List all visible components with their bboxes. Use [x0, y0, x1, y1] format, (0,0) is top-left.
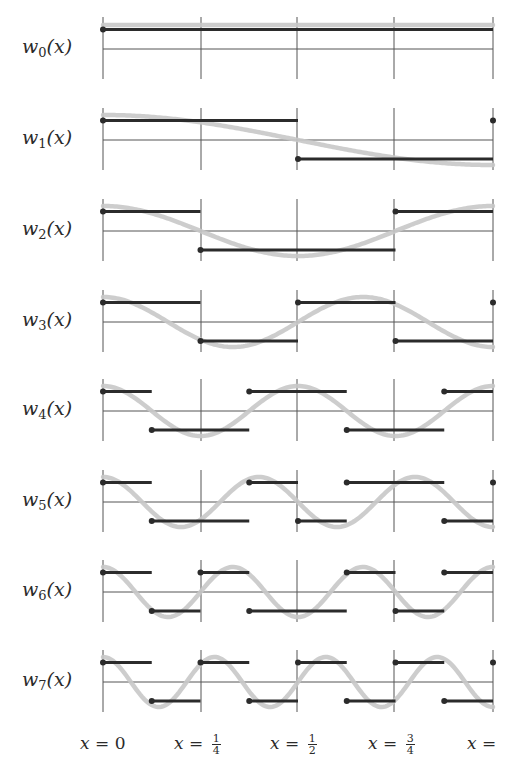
row-label-w0: w0(x): [22, 35, 92, 60]
segment-start-dot: [198, 247, 204, 253]
function-index: 3: [38, 318, 46, 333]
segment-start-dot: [100, 209, 106, 215]
function-index: 6: [38, 588, 46, 603]
x-axis-label: x = 34: [368, 733, 415, 756]
fraction-denominator: 2: [309, 745, 316, 756]
segment-start-dot: [441, 389, 447, 395]
function-argument: (x): [47, 578, 73, 600]
function-index: 5: [38, 498, 46, 513]
equals-sign: =: [280, 733, 305, 753]
segment-start-dot: [393, 660, 399, 666]
equals-sign: =: [90, 733, 115, 753]
segment-start-dot: [198, 338, 204, 344]
segment-start-dot: [149, 427, 155, 433]
function-argument: (x): [47, 488, 73, 510]
segment-start-dot: [295, 156, 301, 162]
segment-start-dot: [100, 300, 106, 306]
segment-start-dot: [295, 300, 301, 306]
function-index: 2: [38, 227, 46, 242]
endpoint-dot: [490, 300, 496, 306]
segment-start-dot: [344, 480, 350, 486]
function-index: 7: [38, 678, 46, 693]
equals-sign: =: [378, 733, 403, 753]
segment-start-dot: [246, 480, 252, 486]
row-label-w3: w3(x): [22, 308, 92, 333]
function-name: w: [22, 126, 38, 148]
walsh-plot-area: [0, 0, 513, 764]
axis-fraction: 14: [212, 733, 221, 756]
row-label-w5: w5(x): [22, 488, 92, 513]
segment-start-dot: [246, 608, 252, 614]
segment-start-dot: [295, 518, 301, 524]
axis-variable: x: [467, 733, 477, 753]
segment-start-dot: [198, 570, 204, 576]
endpoint-dot: [490, 118, 496, 124]
walsh-function-figure: w0(x)w1(x)w2(x)w3(x)w4(x)w5(x)w6(x)w7(x)…: [0, 0, 513, 764]
segment-start-dot: [344, 427, 350, 433]
function-name: w: [22, 578, 38, 600]
equals-sign: =: [477, 733, 497, 753]
x-axis-label: x =: [467, 733, 496, 753]
segment-start-dot: [246, 389, 252, 395]
segment-start-dot: [149, 518, 155, 524]
fraction-denominator: 4: [213, 745, 220, 756]
function-argument: (x): [47, 35, 73, 57]
row-label-w1: w1(x): [22, 126, 92, 151]
function-name: w: [22, 35, 38, 57]
function-argument: (x): [47, 397, 73, 419]
segment-start-dot: [393, 608, 399, 614]
function-argument: (x): [47, 126, 73, 148]
axis-variable: x: [270, 733, 280, 753]
segment-start-dot: [100, 389, 106, 395]
axis-variable: x: [368, 733, 378, 753]
segment-start-dot: [246, 698, 252, 704]
row-label-w4: w4(x): [22, 397, 92, 422]
equals-sign: =: [184, 733, 209, 753]
function-name: w: [22, 488, 38, 510]
function-argument: (x): [47, 308, 73, 330]
endpoint-dot: [490, 480, 496, 486]
segment-start-dot: [100, 480, 106, 486]
segment-start-dot: [393, 338, 399, 344]
function-name: w: [22, 217, 38, 239]
x-axis-label: x = 14: [174, 733, 221, 756]
segment-start-dot: [149, 608, 155, 614]
function-argument: (x): [47, 668, 73, 690]
x-axis-label: x = 12: [270, 733, 317, 756]
row-label-w7: w7(x): [22, 668, 92, 693]
function-name: w: [22, 668, 38, 690]
segment-start-dot: [441, 518, 447, 524]
segment-start-dot: [100, 27, 106, 33]
axis-value: 0: [115, 733, 126, 753]
segment-start-dot: [344, 698, 350, 704]
axis-variable: x: [80, 733, 90, 753]
function-argument: (x): [47, 217, 73, 239]
segment-start-dot: [100, 660, 106, 666]
segment-start-dot: [295, 660, 301, 666]
segment-start-dot: [344, 570, 350, 576]
segment-start-dot: [393, 209, 399, 215]
segment-start-dot: [198, 660, 204, 666]
function-name: w: [22, 308, 38, 330]
segment-start-dot: [441, 570, 447, 576]
row-label-w2: w2(x): [22, 217, 92, 242]
fraction-denominator: 4: [407, 745, 414, 756]
axis-variable: x: [174, 733, 184, 753]
axis-fraction: 34: [406, 733, 415, 756]
segment-start-dot: [149, 698, 155, 704]
function-index: 4: [38, 407, 46, 422]
segment-start-dot: [100, 118, 106, 124]
function-index: 1: [38, 136, 46, 151]
endpoint-dot: [490, 660, 496, 666]
axis-fraction: 12: [308, 733, 317, 756]
x-axis-label: x = 0: [80, 733, 125, 753]
function-index: 0: [38, 45, 46, 60]
function-name: w: [22, 397, 38, 419]
row-label-w6: w6(x): [22, 578, 92, 603]
segment-start-dot: [441, 698, 447, 704]
segment-start-dot: [100, 570, 106, 576]
